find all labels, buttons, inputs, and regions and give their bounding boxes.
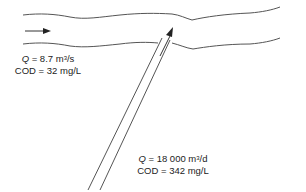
river-discharge-text: Q = 8.7 m3/s (6, 53, 90, 65)
discharge-symbol: Q (138, 153, 145, 164)
river-cod-text: COD = 32 mg/L (6, 65, 90, 77)
river-discharge-unit: /s (67, 53, 74, 64)
river-upper-bank (23, 7, 280, 20)
river-discharge-value: = 8.7 m (29, 53, 64, 64)
discharge-symbol: Q (22, 53, 29, 64)
unit-exponent: 3 (64, 55, 67, 61)
outfall-discharge-unit: /d (200, 153, 208, 164)
outfall-discharge-value: = 18 000 m (146, 153, 196, 164)
river-lower-bank-right (172, 38, 280, 49)
outfall-flow-arrow-icon (160, 27, 173, 56)
river-lower-bank-left (23, 42, 158, 46)
unit-exponent: 3 (196, 155, 199, 161)
river-flow-label: Q = 8.7 m3/s COD = 32 mg/L (6, 53, 90, 77)
outfall-discharge-text: Q = 18 000 m3/d (128, 153, 218, 165)
outfall-flow-label: Q = 18 000 m3/d COD = 342 mg/L (128, 153, 218, 177)
outfall-cod-text: COD = 342 mg/L (128, 165, 218, 177)
river-flow-arrow-icon (25, 28, 51, 34)
